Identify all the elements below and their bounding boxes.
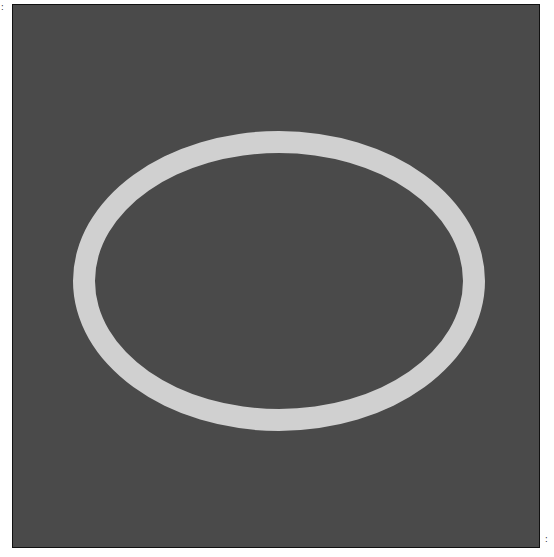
ellipse-ring xyxy=(73,131,485,431)
corner-mark-top-left: : xyxy=(1,4,4,12)
corner-mark-bottom-right: : xyxy=(545,536,548,544)
